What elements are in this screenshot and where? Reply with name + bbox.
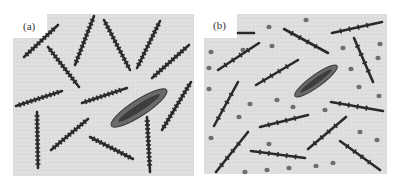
particle [266, 25, 271, 29]
panel-label-a: (a) [23, 20, 36, 33]
panel-label-b: (b) [213, 19, 226, 32]
particle [322, 108, 327, 112]
particle [340, 46, 345, 50]
particle [264, 168, 269, 172]
particle [286, 166, 291, 170]
particle [206, 66, 211, 70]
particle [357, 130, 362, 134]
particle [313, 164, 318, 168]
panel-b [204, 14, 387, 174]
particle [356, 85, 361, 89]
particle [330, 161, 335, 165]
figure: (a) (b) [0, 0, 397, 187]
particle [208, 136, 213, 140]
particle [266, 142, 271, 146]
particle [269, 44, 274, 48]
particle [242, 170, 247, 174]
particle [374, 138, 379, 142]
particle [290, 105, 295, 109]
particle [208, 50, 213, 54]
particle [303, 18, 308, 22]
particle [274, 98, 279, 102]
particle [247, 102, 252, 106]
panel-a [13, 14, 194, 176]
particle [206, 87, 211, 91]
rod-chain [35, 112, 41, 168]
particle [236, 115, 241, 119]
particle [376, 94, 381, 98]
particle [375, 56, 380, 60]
particle [348, 67, 353, 71]
particle [377, 42, 382, 46]
